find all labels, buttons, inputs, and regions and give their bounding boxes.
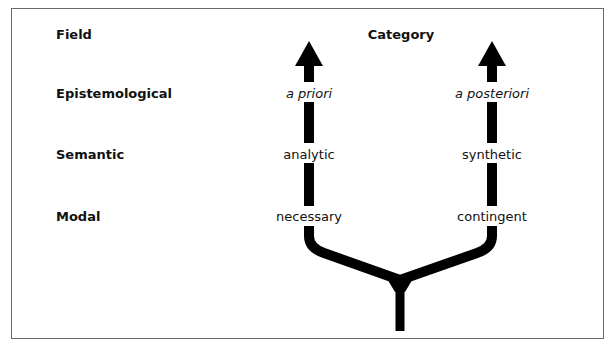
right-shaft-mid2 <box>487 163 497 206</box>
right-arrowhead-icon <box>478 41 506 66</box>
category-contingent: contingent <box>457 209 527 224</box>
left-shaft-mid1 <box>304 102 314 143</box>
category-header: Category <box>368 27 434 42</box>
field-header: Field <box>56 27 92 42</box>
category-a-posteriori: a posteriori <box>455 86 529 101</box>
category-analytic: analytic <box>283 147 334 162</box>
left-branch <box>309 226 400 280</box>
trunk <box>396 280 405 331</box>
field-epistemological: Epistemological <box>56 86 172 101</box>
category-necessary: necessary <box>276 209 342 224</box>
right-shaft-mid1 <box>487 102 497 143</box>
left-shaft-top <box>304 65 314 82</box>
left-shaft-mid2 <box>304 163 314 206</box>
field-semantic: Semantic <box>56 147 124 162</box>
category-synthetic: synthetic <box>462 147 522 162</box>
left-arrowhead-icon <box>295 41 323 66</box>
right-shaft-top <box>487 65 497 82</box>
category-a-priori: a priori <box>286 86 332 101</box>
field-modal: Modal <box>56 209 100 224</box>
branching-arrows <box>0 0 614 347</box>
right-branch <box>400 226 492 280</box>
